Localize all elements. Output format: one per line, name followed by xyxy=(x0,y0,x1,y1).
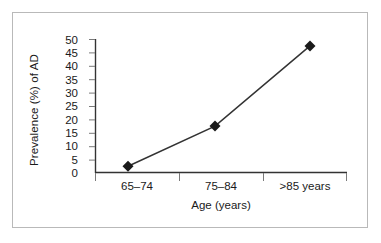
x-axis-title: Age (years) xyxy=(95,199,347,211)
x-tick-label-65-74: 65–74 xyxy=(95,180,179,192)
data-line-prevalence xyxy=(128,46,310,166)
x-tick-label-over-85: >85 years xyxy=(263,180,347,192)
figure-container: Prevalence (%) of AD 50 45 40 35 30 25 2… xyxy=(0,0,381,243)
data-markers xyxy=(123,40,316,171)
data-point-65-74 xyxy=(123,161,134,172)
chart-plot-area: Prevalence (%) of AD 50 45 40 35 30 25 2… xyxy=(0,0,381,243)
x-tick-label-75-84: 75–84 xyxy=(179,180,263,192)
y-axis-ticks xyxy=(89,40,95,161)
